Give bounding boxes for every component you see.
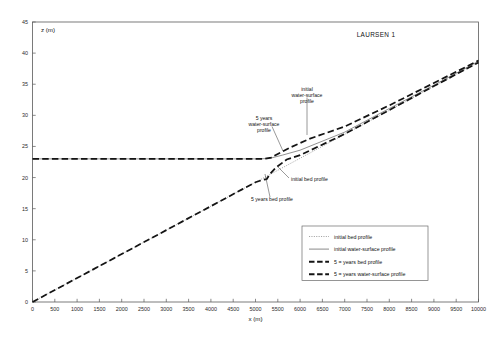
y-tick-label: 35 <box>22 81 28 87</box>
x-tick-label: 5000 <box>250 306 262 312</box>
y-tick-label: 25 <box>22 143 28 149</box>
y-tick-label: 30 <box>22 112 28 118</box>
x-tick-label: 10000 <box>471 306 486 312</box>
x-tick-label: 4000 <box>205 306 217 312</box>
y-tick-label: 15 <box>22 206 28 212</box>
y-tick-label: 5 <box>25 268 28 274</box>
x-tick-label: 7500 <box>361 306 373 312</box>
x-axis-title: x (m) <box>248 315 262 322</box>
chart-title: LAURSEN 1 <box>357 31 396 38</box>
x-tick-label: 1500 <box>93 306 105 312</box>
annotation-5-years-bed: 5 years bed profile <box>251 196 293 202</box>
series-5-years-water-surface-profile <box>33 61 479 159</box>
x-tick-label: 1000 <box>71 306 83 312</box>
x-tick-label: 2000 <box>116 306 128 312</box>
x-tick-label: 4500 <box>227 306 239 312</box>
y-tick-label: 20 <box>22 175 28 181</box>
x-tick-label: 8500 <box>406 306 418 312</box>
legend-label: initial water-surface profile <box>334 246 396 252</box>
x-tick-label: 6500 <box>316 306 328 312</box>
x-tick-label: 3000 <box>160 306 172 312</box>
x-tick-label: 8000 <box>383 306 395 312</box>
y-tick-label: 40 <box>22 50 28 56</box>
x-tick-label: 3500 <box>183 306 195 312</box>
x-tick-label: 0 <box>31 306 34 312</box>
leader-line <box>272 127 283 152</box>
chart-root: 0500100015002000250030003500400045005000… <box>0 0 499 345</box>
annotation-5-years-water-surface: 5 yearswater-surfaceprofile <box>249 115 280 133</box>
annotation-text: profile <box>257 127 271 133</box>
series-initial-water-surface-profile <box>33 61 479 159</box>
y-tick-label: 45 <box>22 19 28 25</box>
x-tick-label: 5500 <box>272 306 284 312</box>
x-tick-label: 500 <box>50 306 59 312</box>
x-tick-label: 2500 <box>138 306 150 312</box>
x-tick-label: 9500 <box>450 306 462 312</box>
annotation-initial-bed: initial bed profile <box>291 176 328 182</box>
y-axis-title: z (m) <box>41 26 55 33</box>
legend-label: 5 = years water-surface profile <box>334 271 405 277</box>
x-tick-label: 9000 <box>428 306 440 312</box>
y-tick-label: 10 <box>22 237 28 243</box>
profile-chart: 0500100015002000250030003500400045005000… <box>0 0 499 345</box>
x-tick-label: 7000 <box>339 306 351 312</box>
x-tick-label: 6000 <box>294 306 306 312</box>
y-tick-label: 0 <box>25 299 28 305</box>
legend-label: 5 = years bed profile <box>334 259 382 265</box>
legend-label: initial bed profile <box>334 234 372 240</box>
